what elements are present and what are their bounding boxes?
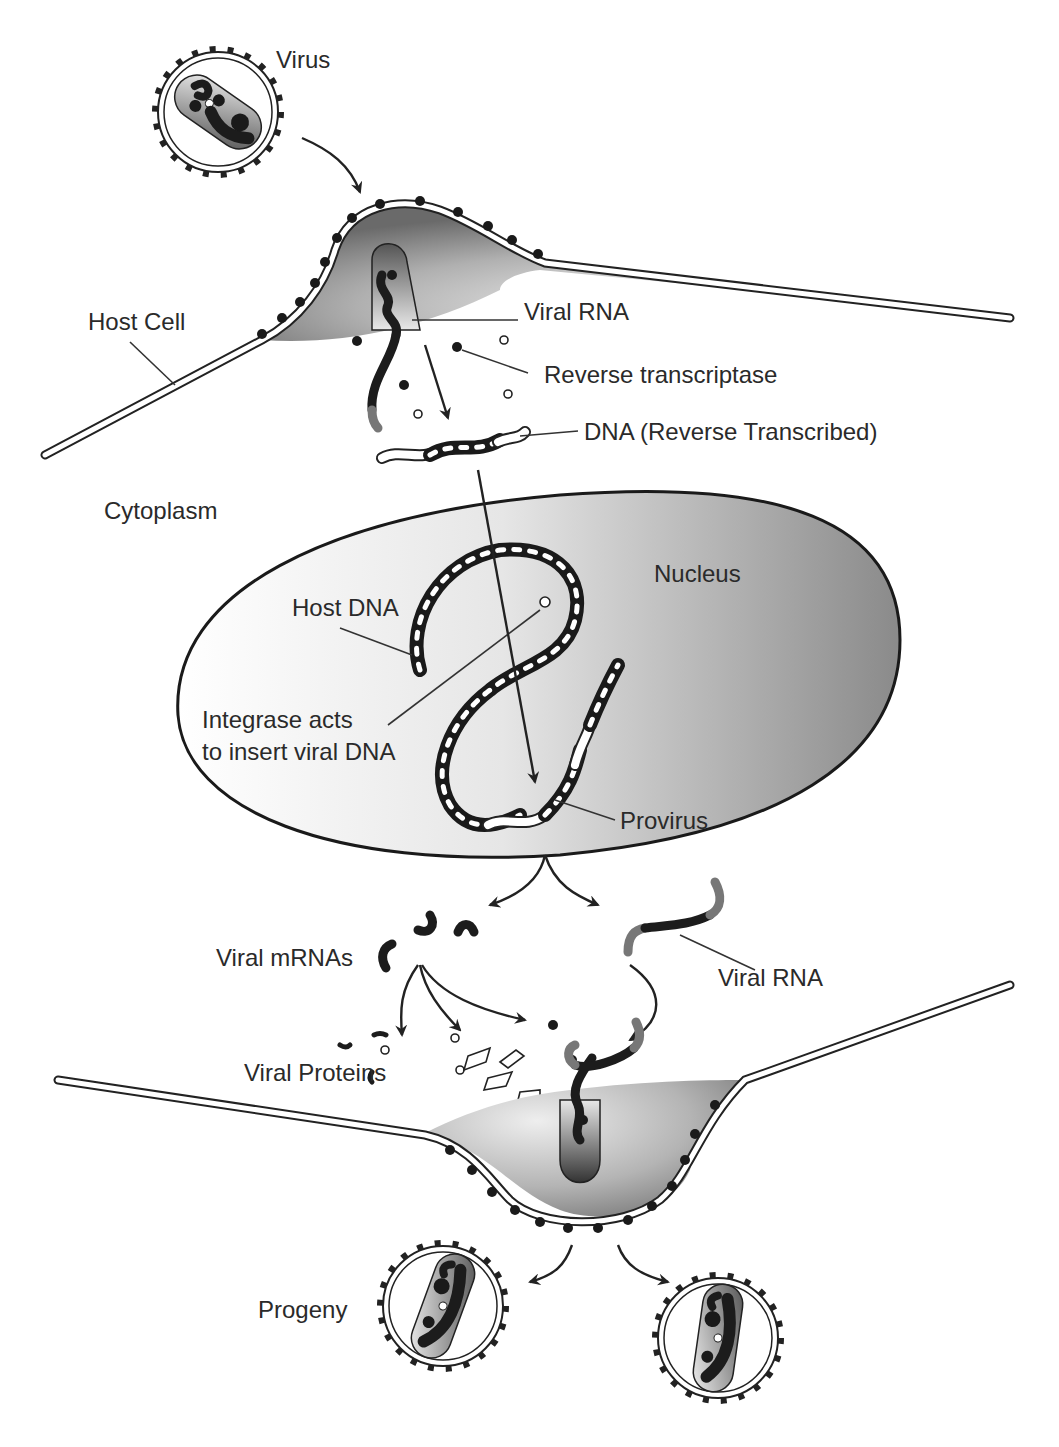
label-progeny: Progeny bbox=[258, 1296, 347, 1323]
label-host-dna: Host DNA bbox=[292, 594, 399, 621]
virus-particle-incoming bbox=[155, 49, 281, 175]
viral-rna-strand-top bbox=[372, 335, 396, 410]
label-cytoplasm: Cytoplasm bbox=[104, 497, 217, 524]
arrow-to-progeny-right bbox=[618, 1245, 668, 1282]
arrow-to-mrnas bbox=[490, 855, 545, 905]
arrow-to-viral-rna bbox=[545, 855, 598, 905]
label-reverse-transcriptase: Reverse transcriptase bbox=[544, 361, 777, 388]
label-integrase-line1: Integrase acts bbox=[202, 706, 353, 733]
label-nucleus: Nucleus bbox=[654, 560, 741, 587]
retrovirus-life-cycle-diagram: Virus Host Cell Viral RNA bbox=[0, 0, 1059, 1447]
progeny-virus-right bbox=[655, 1275, 781, 1401]
arrow-mrna-to-protein-2 bbox=[420, 965, 460, 1030]
arrow-to-progeny-left bbox=[530, 1245, 572, 1282]
label-integrase-line2: to insert viral DNA bbox=[202, 738, 395, 765]
arrow-virus-to-cell bbox=[302, 138, 360, 192]
progeny-virus-left bbox=[380, 1243, 506, 1369]
label-virus: Virus bbox=[276, 46, 330, 73]
label-viral-rna-bottom: Viral RNA bbox=[718, 964, 823, 991]
arrow-mrna-to-protein-3 bbox=[422, 965, 525, 1020]
label-viral-mrnas: Viral mRNAs bbox=[216, 944, 353, 971]
host-cell-membrane-top bbox=[45, 196, 1010, 455]
integrase-molecule bbox=[540, 597, 550, 607]
viral-mrnas bbox=[383, 915, 474, 968]
viral-rna-bottom-strand bbox=[628, 882, 720, 952]
dna-reverse-transcribed bbox=[382, 432, 525, 458]
host-cell-membrane-bottom bbox=[58, 985, 1010, 1233]
arrow-mrna-to-protein-1 bbox=[401, 965, 418, 1035]
label-host-cell: Host Cell bbox=[88, 308, 185, 335]
label-viral-proteins: Viral Proteins bbox=[244, 1059, 386, 1086]
label-dna-reverse-transcribed: DNA (Reverse Transcribed) bbox=[584, 418, 877, 445]
arrow-rna-to-dna bbox=[425, 345, 448, 418]
label-provirus: Provirus bbox=[620, 807, 708, 834]
label-viral-rna-top: Viral RNA bbox=[524, 298, 629, 325]
